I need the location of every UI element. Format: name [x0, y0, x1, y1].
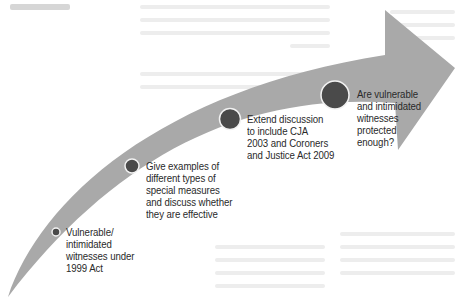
milestone-2-circle-icon [125, 159, 139, 173]
milestone-3-label: Extend discussion to include CJA 2003 an… [247, 113, 334, 161]
milestone-2-label: Give examples of different types of spec… [146, 160, 232, 220]
milestone-1-circle-icon [52, 228, 60, 236]
milestone-1-label: Vulnerable/ intimidated witnesses under … [66, 226, 134, 274]
milestone-4-label: Are vulnerable and intimidated witnesses… [357, 88, 421, 148]
milestone-4-circle-icon [321, 81, 349, 109]
progression-diagram: Vulnerable/ intimidated witnesses under … [0, 0, 463, 300]
milestone-3-circle-icon [220, 109, 241, 130]
